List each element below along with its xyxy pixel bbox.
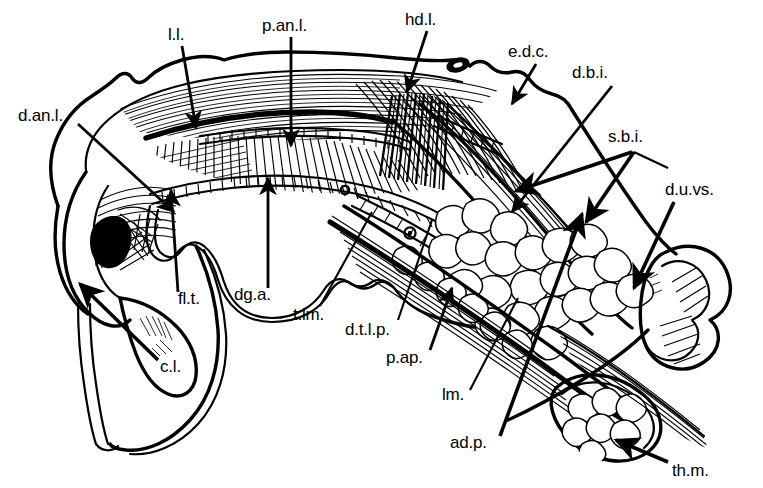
leader-line-th-m bbox=[616, 440, 668, 462]
label-e-d-c: e.d.c. bbox=[508, 42, 548, 61]
label-l-l: l.l. bbox=[168, 25, 184, 44]
label-hd-l: hd.l. bbox=[405, 10, 436, 29]
label-fl-t: fl.t. bbox=[178, 289, 200, 308]
label-d-b-i: d.b.i. bbox=[572, 63, 608, 82]
label-lm: lm. bbox=[442, 385, 464, 404]
label-d-u-vs: d.u.vs. bbox=[665, 180, 714, 199]
label-d-an-l: d.an.l. bbox=[18, 106, 63, 125]
label-p-an-l: p.an.l. bbox=[262, 16, 307, 35]
posterior-terminal-knob bbox=[640, 246, 730, 369]
leader-line-s-b-i-tail bbox=[634, 152, 668, 168]
anterior-left-structures bbox=[64, 172, 226, 454]
leader-line-t-lm bbox=[320, 212, 372, 306]
label-d-t-l-p: d.t.l.p. bbox=[345, 320, 390, 339]
label-ad-p: ad.p. bbox=[450, 433, 487, 452]
label-s-b-i: s.b.i. bbox=[608, 127, 643, 146]
anatomy-illustration: l.l. p.an.l. hd.l. e.d.c. d.b.i. s.b.i. … bbox=[0, 0, 763, 488]
leader-line-d-an-l bbox=[78, 124, 174, 212]
label-t-lm: t.lm. bbox=[293, 305, 324, 324]
label-c-l: c.l. bbox=[160, 357, 181, 376]
figure-root: l.l. p.an.l. hd.l. e.d.c. d.b.i. s.b.i. … bbox=[0, 0, 763, 488]
label-th-m: th.m. bbox=[672, 461, 709, 480]
label-p-ap: p.ap. bbox=[386, 348, 423, 367]
leader-line-s-b-i-left bbox=[516, 152, 632, 191]
leader-line-s-b-i-down bbox=[586, 152, 634, 222]
label-dg-a: dg.a. bbox=[234, 285, 271, 304]
